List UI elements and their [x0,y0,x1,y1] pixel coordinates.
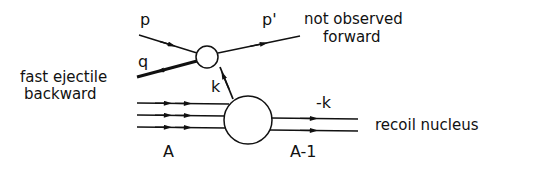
outgoing-note-line2: forward [323,28,381,46]
target-nucleus-label: A [163,142,174,161]
ejectile-note-line1: fast ejectile [20,68,107,86]
nucleus-vertex-circle [224,96,272,144]
exchange-k-line [220,67,233,99]
outgoing-note-line1: not observed [304,10,403,28]
residual-nucleus-label: A-1 [290,142,317,161]
target-nucleus-lines [137,103,229,128]
reaction-diagram: p p' not observed forward q fast ejectil… [0,0,534,174]
incoming-proton-label: p [140,10,150,29]
recoil-note: recoil nucleus [375,116,479,134]
ejectile-label: q [138,52,148,71]
outgoing-proton-label: p' [262,10,277,29]
recoil-momentum-label: -k [316,93,332,112]
outgoing-proton-line [218,36,300,53]
incoming-proton-line [139,35,197,53]
residual-nucleus-lines [270,118,358,131]
small-vertex-circle [196,46,218,68]
exchange-k-label: k [211,77,221,96]
ejectile-note-line2: backward [24,85,97,103]
